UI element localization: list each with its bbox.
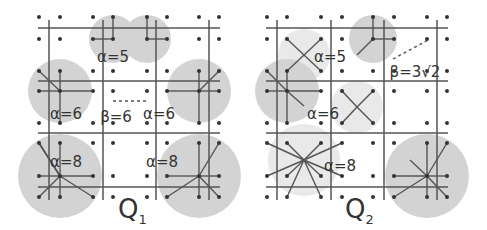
- lattice-point: [265, 37, 269, 41]
- lattice-point: [91, 141, 95, 145]
- lattice-point: [111, 89, 115, 93]
- lattice-point: [197, 141, 201, 145]
- lattice-point: [197, 69, 201, 73]
- lattice-point: [111, 141, 115, 145]
- parameter-label: α=8: [146, 153, 178, 171]
- lattice-point: [91, 37, 95, 41]
- lattice-point: [425, 174, 429, 178]
- lattice-point: [285, 174, 289, 178]
- panel-q2: α=5β=3√2α=6α=8Q2: [255, 15, 469, 227]
- lattice-point: [217, 89, 221, 93]
- lattice-point: [445, 15, 449, 19]
- lattice-point: [445, 89, 449, 93]
- lattice-point: [165, 69, 169, 73]
- lattice-point: [445, 37, 449, 41]
- panel-label-subscript: 1: [138, 212, 146, 227]
- lattice-point: [445, 174, 449, 178]
- lattice-point: [217, 195, 221, 199]
- lattice-point: [392, 174, 396, 178]
- lattice-point: [37, 69, 41, 73]
- lattice-point: [392, 121, 396, 125]
- lattice-point: [37, 195, 41, 199]
- lattice-point: [91, 89, 95, 93]
- lattice-point: [111, 174, 115, 178]
- lattice-point: [445, 121, 449, 125]
- lattice-point: [91, 174, 95, 178]
- lattice-point: [145, 174, 149, 178]
- parameter-label: β=3√2: [390, 63, 441, 81]
- lattice-point: [319, 141, 323, 145]
- lattice-point: [392, 15, 396, 19]
- lattice-point: [265, 121, 269, 125]
- lattice-point: [217, 121, 221, 125]
- lattice-point: [392, 89, 396, 93]
- lattice-point: [58, 37, 62, 41]
- lattice-point: [319, 37, 323, 41]
- lattice-point: [392, 195, 396, 199]
- lattice-point: [91, 15, 95, 19]
- lattice-point: [392, 37, 396, 41]
- lattice-point: [58, 195, 62, 199]
- lattice-point: [165, 89, 169, 93]
- lattice-point: [371, 37, 375, 41]
- lattice-point: [265, 69, 269, 73]
- lattice-point: [285, 121, 289, 125]
- parameter-label: α=6: [143, 105, 175, 123]
- lattice-point: [265, 141, 269, 145]
- lattice-point: [285, 141, 289, 145]
- lattice-point: [145, 89, 149, 93]
- parameter-label: α=5: [97, 48, 129, 66]
- lattice-point: [145, 141, 149, 145]
- lattice-point: [265, 89, 269, 93]
- parameter-label: β=6: [100, 108, 132, 126]
- lattice-point: [91, 121, 95, 125]
- lattice-point: [37, 89, 41, 93]
- lattice-point: [197, 37, 201, 41]
- lattice-point: [197, 89, 201, 93]
- lattice-point: [371, 195, 375, 199]
- lattice-point: [91, 69, 95, 73]
- lattice-point: [145, 15, 149, 19]
- parameter-label: α=6: [50, 105, 82, 123]
- lattice-point: [265, 174, 269, 178]
- lattice-point: [285, 69, 289, 73]
- lattice-point: [392, 141, 396, 145]
- lattice-point: [37, 37, 41, 41]
- lattice-point: [58, 69, 62, 73]
- parameter-label: α=8: [324, 157, 356, 175]
- lattice-point: [371, 69, 375, 73]
- panel-label-subscript: 2: [365, 212, 373, 227]
- lattice-point: [165, 174, 169, 178]
- lattice-point: [371, 141, 375, 145]
- lattice-point: [111, 37, 115, 41]
- lattice-point: [145, 195, 149, 199]
- lattice-point: [319, 89, 323, 93]
- lattice-point: [197, 15, 201, 19]
- lattice-point: [340, 69, 344, 73]
- lattice-point: [217, 141, 221, 145]
- lattice-point: [58, 15, 62, 19]
- parameter-label: α=8: [50, 153, 82, 171]
- lattice-point: [37, 174, 41, 178]
- lattice-point: [425, 121, 429, 125]
- lattice-point: [145, 69, 149, 73]
- lattice-point: [425, 195, 429, 199]
- lattice-point: [425, 141, 429, 145]
- lattice-point: [197, 121, 201, 125]
- lattice-point: [340, 15, 344, 19]
- lattice-point: [340, 37, 344, 41]
- lattice-point: [197, 174, 201, 178]
- lattice-point: [111, 69, 115, 73]
- lattice-point: [58, 174, 62, 178]
- panel-q1: α=5α=6α=6β=6α=8α=8Q1: [18, 15, 241, 227]
- parameter-label: α=6: [307, 105, 339, 123]
- lattice-point: [217, 15, 221, 19]
- lattice-point: [285, 89, 289, 93]
- lattice-point: [340, 141, 344, 145]
- lattice-point: [319, 15, 323, 19]
- lattice-point: [340, 121, 344, 125]
- lattice-point: [145, 37, 149, 41]
- lattice-point: [319, 174, 323, 178]
- lattice-point: [340, 89, 344, 93]
- lattice-point: [425, 37, 429, 41]
